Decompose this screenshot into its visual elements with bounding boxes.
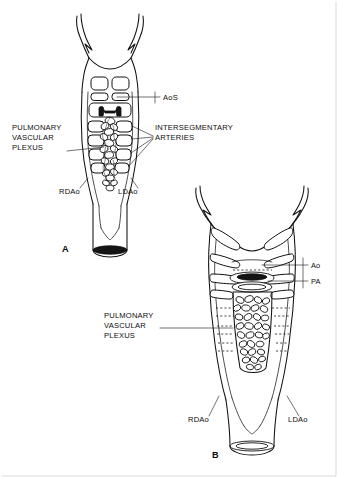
label-rdao-b: RDAo bbox=[188, 415, 209, 424]
label-rdao-a: RDAo bbox=[59, 187, 80, 196]
panel-b-stem-lumen-inner bbox=[236, 443, 268, 449]
label-ao: Ao bbox=[311, 261, 320, 270]
panel-letter-a: A bbox=[62, 244, 69, 254]
anatomical-diagram-canvas: AoS PULMONARY VASCULAR PLEXUS INTERSEGME… bbox=[0, 0, 338, 478]
panel-letter-b: B bbox=[212, 450, 219, 460]
label-ldao-b: LDAo bbox=[288, 415, 308, 424]
label-pa: PA bbox=[311, 277, 321, 286]
figure-root: AoS PULMONARY VASCULAR PLEXUS INTERSEGME… bbox=[0, 0, 338, 478]
panel-a-stem-lumen bbox=[93, 246, 127, 254]
panel-b: Ao PA PULMONARY VASCULAR PLEXUS RDAo LDA… bbox=[104, 186, 321, 460]
panel-b-pa-lumen bbox=[237, 274, 267, 280]
label-ldao-a: LDAo bbox=[118, 187, 138, 196]
panel-a: AoS PULMONARY VASCULAR PLEXUS INTERSEGME… bbox=[12, 14, 235, 257]
label-aos: AoS bbox=[163, 93, 178, 102]
panel-b-pulmonary-plexus bbox=[232, 292, 272, 373]
panel-a-aortic-sac bbox=[89, 103, 131, 117]
label-pulmonary-vascular-plexus-b: PULMONARY VASCULAR PLEXUS bbox=[104, 311, 156, 340]
panel-b-pa-ring-lower-inner bbox=[238, 284, 266, 290]
label-intersegmentary-arteries: INTERSEGMENTARY ARTERIES bbox=[155, 123, 235, 142]
label-pulmonary-vascular-plexus-a: PULMONARY VASCULAR PLEXUS bbox=[12, 123, 64, 152]
